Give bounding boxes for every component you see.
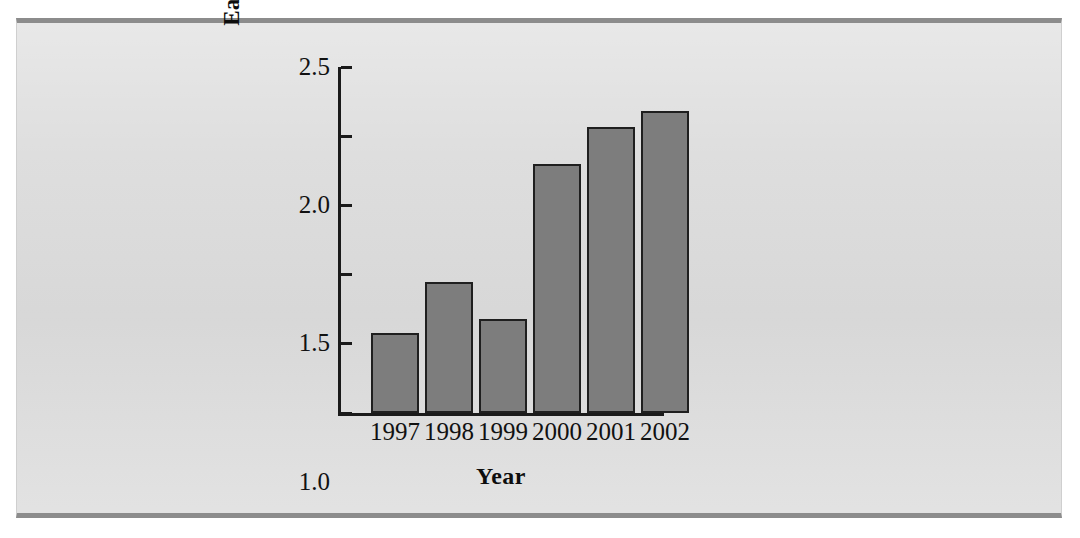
- bar: [533, 164, 581, 413]
- x-axis-tick-label: 2000: [532, 419, 582, 444]
- x-axis-line: [338, 413, 664, 416]
- figure-frame: Earnings ($ billions) 00.51.01.52.02.5 1…: [16, 18, 1062, 518]
- x-axis-tick-label: 1999: [478, 419, 528, 444]
- y-axis-tick-label: 1.0: [299, 468, 330, 493]
- bar-chart: Earnings ($ billions) 00.51.01.52.02.5 1…: [17, 23, 1063, 523]
- y-axis-title: Earnings ($ billions): [213, 0, 245, 83]
- y-axis-tick-label: 1.5: [299, 330, 330, 355]
- x-axis-tick-label: 2002: [640, 419, 690, 444]
- y-axis-title-text: Earnings ($ billions): [219, 0, 245, 83]
- bar: [587, 127, 635, 413]
- bar-series: [338, 67, 661, 413]
- chart-page: Earnings ($ billions) 00.51.01.52.02.5 1…: [0, 0, 1080, 538]
- x-axis-tick-label: 1997: [370, 419, 420, 444]
- bar: [425, 282, 473, 413]
- bar: [641, 111, 689, 413]
- y-axis-tick-label: 2.0: [299, 191, 330, 216]
- plot-area: 00.51.01.52.02.5 19971998199920002001200…: [338, 67, 661, 413]
- x-axis-tick-label: 2001: [586, 419, 636, 444]
- x-axis-tick-label: 1998: [424, 419, 474, 444]
- bar: [479, 319, 527, 413]
- bar: [371, 333, 419, 413]
- y-axis-tick-label: 2.5: [299, 53, 330, 78]
- x-axis-title: Year: [338, 463, 664, 490]
